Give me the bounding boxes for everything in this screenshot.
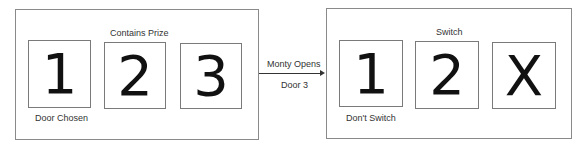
door-number: 3: [193, 48, 229, 104]
door-3-opened: X: [492, 42, 556, 109]
dont-switch-label: Don't Switch: [346, 113, 396, 123]
door-chosen-label: Door Chosen: [35, 113, 88, 123]
monty-opens-label: Monty Opens: [267, 59, 321, 69]
transition-arrow: [259, 73, 321, 74]
door-number: 1: [353, 46, 389, 102]
switch-label: Switch: [436, 27, 463, 37]
door-number: 2: [117, 48, 153, 104]
door-3-before: 3: [180, 43, 242, 109]
door-1-after: 1: [339, 40, 403, 107]
contains-prize-label: Contains Prize: [110, 28, 169, 38]
door-2-before: 2: [104, 42, 166, 109]
door-number: 2: [429, 47, 465, 103]
door-2-after: 2: [415, 41, 479, 109]
arrowhead-icon: [320, 70, 325, 76]
opened-door-x: X: [505, 48, 543, 104]
door-number: 1: [42, 46, 78, 102]
door-1-before: 1: [28, 40, 91, 108]
door-3-label: Door 3: [281, 80, 308, 90]
